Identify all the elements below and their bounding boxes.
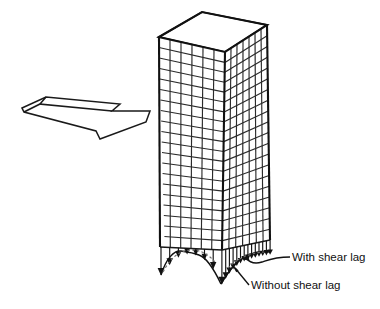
stress-arrow	[260, 242, 266, 257]
figure-canvas: With shear lag Without shear lag	[0, 0, 380, 309]
without-shear-lag-leader	[232, 265, 249, 285]
stress-arrow	[256, 242, 262, 256]
stress-arrow	[253, 243, 259, 258]
stress-arrow	[264, 241, 270, 256]
shear-lag-figure: With shear lag Without shear lag	[0, 0, 380, 309]
lateral-load-arrow	[22, 97, 150, 139]
without-shear-lag-label: Without shear lag	[251, 279, 341, 291]
with-shear-lag-label: With shear lag	[292, 251, 366, 263]
